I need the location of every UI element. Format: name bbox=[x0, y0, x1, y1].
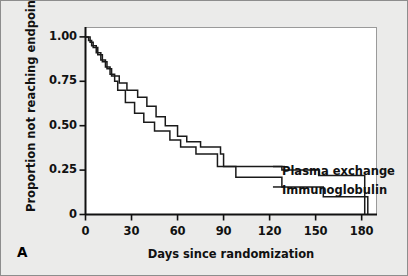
x-tick-label: 180 bbox=[332, 224, 392, 238]
series-label-immunoglobulin: Immunoglobulin bbox=[282, 183, 387, 197]
series-label-plasma-exchange: Plasma exchange bbox=[282, 164, 395, 178]
x-axis-title: Days since randomization bbox=[85, 247, 377, 261]
panel-letter: A bbox=[17, 244, 27, 260]
y-axis-title: Proportion not reaching endpoint bbox=[24, 12, 38, 212]
figure-panel: 00.250.500.751.00 0306090120150180 Propo… bbox=[0, 0, 408, 276]
